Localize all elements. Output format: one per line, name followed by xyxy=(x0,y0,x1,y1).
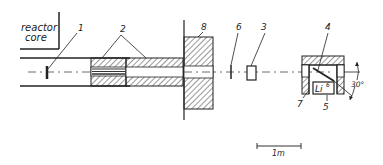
sample-superscript: 6 xyxy=(326,81,330,88)
shield-block xyxy=(184,37,213,109)
reactor-label-line2: core xyxy=(25,32,47,43)
callout-6: 6 xyxy=(236,22,242,32)
scale-label: 1m xyxy=(272,149,285,158)
callout-5: 5 xyxy=(323,102,329,112)
callout-3: 3 xyxy=(261,22,267,32)
callout-4: 4 xyxy=(325,22,331,32)
detector-3 xyxy=(247,66,256,80)
callout-7: 7 xyxy=(297,99,303,109)
callout-1: 1 xyxy=(78,23,84,33)
diagram-canvas: reactor core xyxy=(0,0,383,165)
sample-label: Li xyxy=(315,84,323,94)
angle-label: 30° xyxy=(351,80,365,89)
callout-2: 2 xyxy=(120,24,126,34)
collimator-outer xyxy=(126,58,183,86)
scatterer-4 xyxy=(313,68,334,81)
callout-8: 8 xyxy=(201,22,207,32)
arrowhead-upper xyxy=(355,62,359,66)
arrowhead-lower xyxy=(349,96,353,100)
collimator-inner xyxy=(91,58,126,86)
